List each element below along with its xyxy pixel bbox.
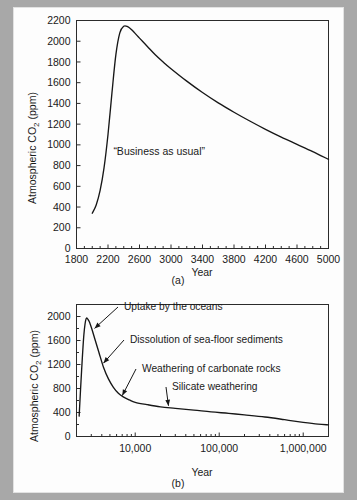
chart-b-annotation-arrowhead [165, 400, 170, 406]
chart-b-x-ticks: 10,000100,0001,000,000 [77, 433, 329, 454]
svg-text:Atmospheric CO2 (ppm): Atmospheric CO2 (ppm) [26, 92, 41, 204]
chart-a-x-tick-label: 2200 [96, 253, 120, 265]
chart-b-y-tick-label: 800 [53, 382, 71, 394]
chart-b-x-tick-label: 100,000 [200, 442, 238, 454]
chart-a-y-ticks: 0200400600800100012001400160018002000220… [47, 14, 80, 254]
chart-a-y-tick-label: 400 [53, 201, 71, 213]
chart-b-annotations: Uptake by the oceansDissolution of sea-f… [95, 301, 283, 406]
chart-a-x-tick-label: 3800 [222, 253, 246, 265]
chart-b-svg: Atmospheric CO2 (ppm) 040080012001600200… [14, 290, 343, 492]
chart-a-y-tick-label: 600 [53, 180, 71, 192]
chart-a-y-tick-label: 200 [53, 221, 71, 233]
chart-a-x-tick-label: 3000 [159, 253, 183, 265]
chart-b-caption: (b) [172, 477, 185, 489]
chart-a-x-tick-label: 2600 [128, 253, 152, 265]
chart-b-y-axis-title-text: Atmospheric CO [28, 365, 40, 442]
chart-b-y-tick-label: 1600 [47, 334, 71, 346]
chart-a-y-tick-label: 1400 [47, 97, 71, 109]
chart-a-y-tick-label: 800 [53, 159, 71, 171]
chart-panel-b: Atmospheric CO2 (ppm) 040080012001600200… [14, 290, 343, 492]
chart-a-y-axis-title-text: Atmospheric CO [26, 127, 38, 204]
chart-b-y-tick-label: 400 [53, 406, 71, 418]
chart-a-x-ticks: 180022002600300034003800420046005000 [65, 245, 341, 265]
figure-container: Atmospheric CO2 (ppm) 020040060080010001… [14, 8, 343, 492]
chart-a-plot-frame [77, 21, 329, 249]
chart-b-x-tick-label: 1,000,000 [280, 442, 327, 454]
chart-a-x-tick-label: 5000 [317, 253, 341, 265]
chart-a-y-tick-label: 2200 [47, 14, 71, 26]
chart-b-y-axis-title-unit: (ppm) [28, 330, 40, 360]
chart-a-inner-annotation: “Business as usual” [113, 145, 205, 157]
chart-a-caption-svg: (a) [14, 272, 343, 288]
chart-a-y-tick-label: 1600 [47, 76, 71, 88]
chart-a-y-tick-label: 1200 [47, 118, 71, 130]
chart-a-y-axis-title: Atmospheric CO2 (ppm) [26, 92, 41, 204]
chart-b-annotation-label: Dissolution of sea-floor sediments [130, 334, 283, 345]
chart-b-y-axis-title: Atmospheric CO2 (ppm) [28, 330, 43, 442]
chart-a-svg: Atmospheric CO2 (ppm) 020040060080010001… [14, 8, 343, 290]
chart-b-caption-svg: (b) [14, 475, 343, 491]
chart-a-x-tick-label: 4600 [285, 253, 309, 265]
chart-a-y-axis-title-unit: (ppm) [26, 92, 38, 122]
chart-b-annotation-label: Silicate weathering [172, 381, 258, 392]
chart-a-x-tick-label: 3400 [191, 253, 215, 265]
chart-a-y-tick-label: 1800 [47, 56, 71, 68]
chart-b-annotation-label: Uptake by the oceans [124, 301, 223, 312]
chart-a-x-tick-label: 4200 [254, 253, 278, 265]
chart-a-x-tick-label: 1800 [65, 253, 89, 265]
chart-b-y-tick-label: 0 [65, 430, 71, 442]
chart-b-y-ticks: 0400800120016002000 [47, 305, 80, 443]
chart-a-data-curve [92, 26, 328, 214]
chart-panel-a: Atmospheric CO2 (ppm) 020040060080010001… [14, 8, 343, 290]
chart-b-annotation-label: Weathering of carbonate rocks [142, 363, 281, 374]
chart-a-caption: (a) [172, 274, 185, 286]
chart-b-x-tick-label: 10,000 [119, 442, 151, 454]
chart-a-y-tick-label: 2000 [47, 35, 71, 47]
chart-b-y-tick-label: 1200 [47, 358, 71, 370]
chart-a-y-tick-label: 1000 [47, 138, 71, 150]
chart-b-y-tick-label: 2000 [47, 310, 71, 322]
svg-text:Atmospheric CO2 (ppm): Atmospheric CO2 (ppm) [28, 330, 43, 442]
chart-b-annotation-arrowhead [122, 389, 127, 395]
